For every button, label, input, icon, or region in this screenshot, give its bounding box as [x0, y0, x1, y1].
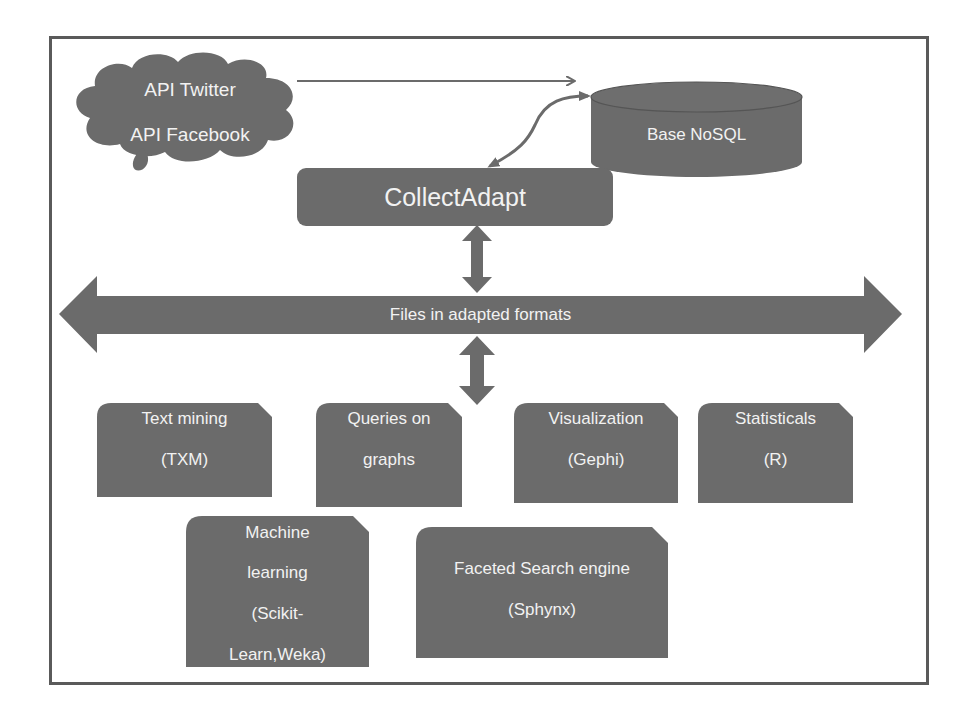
bus-tools-double-arrow — [459, 336, 495, 405]
tool-label-visualization: Visualization (Gephi) — [514, 410, 678, 470]
source-line2: API Facebook — [130, 124, 249, 147]
tool-label-statisticals: Statisticals (R) — [698, 410, 853, 470]
tool-ml-line2: learning — [229, 563, 326, 583]
tool-statisticals-line2: (R) — [735, 450, 816, 470]
tool-queries-line2: graphs — [347, 450, 430, 470]
tool-label-faceted-search: Faceted Search engine (Sphynx) — [416, 560, 668, 620]
database-label: Base NoSQL — [591, 115, 802, 155]
source-label: API Twitter API Facebook — [95, 80, 285, 146]
tool-faceted-line1: Faceted Search engine — [454, 559, 630, 579]
tool-queries-line1: Queries on — [347, 409, 430, 429]
tool-visualization-line1: Visualization — [548, 409, 643, 429]
collector-db-curved-arrow — [490, 96, 588, 166]
tool-ml-line3: (Scikit- — [229, 604, 326, 624]
collector-bus-double-arrow — [462, 225, 492, 293]
tool-faceted-line2: (Sphynx) — [454, 600, 630, 620]
tool-label-queries-graphs: Queries on graphs — [316, 410, 462, 470]
tool-ml-line4: Learn,Weka) — [229, 645, 326, 665]
tool-text-mining-line2: (TXM) — [142, 450, 228, 470]
tool-label-text-mining: Text mining (TXM) — [97, 410, 272, 470]
tool-label-machine-learning: Machine learning (Scikit- Learn,Weka) — [186, 530, 369, 658]
tool-visualization-line2: (Gephi) — [548, 450, 643, 470]
tool-statisticals-line1: Statisticals — [735, 409, 816, 429]
collector-label: CollectAdapt — [384, 182, 526, 212]
source-line1: API Twitter — [130, 79, 249, 102]
bus-label: Files in adapted formats — [97, 296, 864, 334]
tool-text-mining-line1: Text mining — [142, 409, 228, 429]
tool-ml-line1: Machine — [229, 523, 326, 543]
collector-box: CollectAdapt — [297, 168, 613, 226]
